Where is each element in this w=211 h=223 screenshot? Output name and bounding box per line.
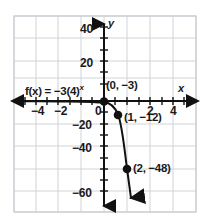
point-label-2: (2, −48) bbox=[133, 163, 171, 175]
point-label-1: (1, −12) bbox=[124, 112, 162, 124]
y-tick-label-20: 20 bbox=[80, 57, 93, 69]
y-tick-label-minus20: −20 bbox=[72, 119, 92, 131]
x-tick-label-zero: 0 bbox=[95, 105, 101, 117]
y-tick-label-40: 40 bbox=[80, 23, 93, 35]
function-equation-text: f(x) = −3(4) bbox=[25, 85, 80, 97]
data-point-1[interactable] bbox=[114, 111, 123, 120]
x-axis-label: x bbox=[178, 83, 184, 94]
y-tick-label-minus60: −60 bbox=[72, 187, 92, 199]
function-equation-label: f(x) = −3(4)x bbox=[25, 84, 84, 97]
exponential-function-graph-figure: −4 −2 0 2 4 40 20 −20 −40 −60 x y f(x) =… bbox=[0, 0, 211, 223]
x-tick-label-minus2: −2 bbox=[54, 105, 67, 117]
x-tick-label-minus4: −4 bbox=[31, 105, 44, 117]
point-label-0: (0, −3) bbox=[106, 80, 137, 92]
y-tick-label-minus40: −40 bbox=[72, 142, 92, 154]
data-point-2[interactable] bbox=[123, 165, 132, 174]
x-tick-label-4: 4 bbox=[170, 105, 176, 117]
function-exponent: x bbox=[80, 83, 84, 92]
y-axis-label: y bbox=[108, 18, 114, 29]
